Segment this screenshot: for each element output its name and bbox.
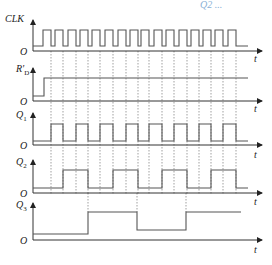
clk-origin: O <box>20 46 27 57</box>
q1-t-label: t <box>254 149 257 160</box>
clk-waveform <box>33 30 248 46</box>
q3-signal: Q3 O t t <box>16 196 262 255</box>
q2-origin: O <box>20 188 27 199</box>
q3-waveform <box>33 212 241 234</box>
rd-t-label: t <box>254 103 257 114</box>
rd-origin: O <box>20 96 27 107</box>
q3-origin: O <box>20 235 27 246</box>
q3-label: Q3 <box>16 199 27 213</box>
q3-t-label: t <box>254 244 257 255</box>
q1-waveform <box>33 124 248 141</box>
q2-signal: Q2 O t <box>16 149 262 199</box>
rd-label: R'D <box>15 63 29 77</box>
clk-signal: CLK O <box>5 13 262 57</box>
q2-label: Q2 <box>16 156 27 170</box>
timing-diagram: Q2 ... CLK O R'D O t Q1 O t Q2 O t <box>0 0 272 265</box>
clk-label: CLK <box>5 13 25 24</box>
rd-waveform <box>33 78 248 96</box>
title-fragment: Q2 ... <box>200 0 222 10</box>
q1-signal: Q1 O t <box>16 103 262 151</box>
q2-waveform <box>33 170 248 188</box>
q1-origin: O <box>20 140 27 151</box>
q2-t-label: t <box>254 196 257 207</box>
rd-signal: R'D O t <box>15 53 262 107</box>
clk-t-label: t <box>254 53 257 64</box>
q1-label: Q1 <box>16 109 27 123</box>
